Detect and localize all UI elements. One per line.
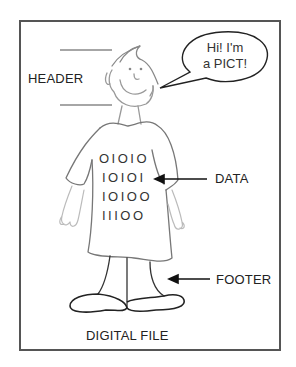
data-label: DATA [215,171,249,186]
binary-data-block: OIOIO IOIOI IOIOO IIIOO [99,149,152,225]
binary-row-3: IOIOO [99,187,152,206]
binary-row-4: IIIOO [99,206,152,225]
speech-bubble-line-1: Hi! I'm [190,40,260,56]
data-arrow [155,175,207,183]
head-icon [106,46,158,124]
footer-label: FOOTER [216,272,271,287]
speech-bubble-line-2: a PICT! [190,56,260,72]
binary-row-1: OIOIO [99,149,152,168]
diagram-title: DIGITAL FILE [86,328,169,343]
header-label: HEADER [28,71,83,86]
binary-row-2: IOIOI [99,168,152,187]
footer-arrow [169,275,210,283]
speech-bubble-text: Hi! I'm a PICT! [190,40,260,72]
